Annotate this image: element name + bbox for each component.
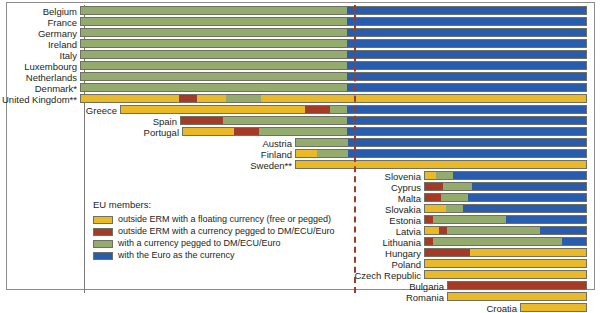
- chart-row: Spain: [7, 116, 594, 125]
- country-bar[interactable]: Lithuania: [424, 237, 587, 246]
- country-label: Portugal: [144, 127, 183, 136]
- country-bar[interactable]: Czech Republic: [424, 270, 587, 279]
- country-bar[interactable]: Malta: [424, 193, 587, 202]
- country-label: Poland: [391, 259, 425, 268]
- country-label: United Kingdom**: [2, 94, 81, 103]
- bar-segment-red: [425, 249, 470, 256]
- country-label: Bulgaria: [409, 281, 448, 290]
- country-label: Germany: [38, 28, 81, 37]
- bar-segment-yellow: [521, 304, 586, 311]
- country-bar[interactable]: Cyprus: [424, 182, 587, 191]
- country-bar[interactable]: Spain: [180, 116, 587, 125]
- country-label: Ireland: [48, 39, 81, 48]
- country-bar[interactable]: Germany: [80, 28, 587, 37]
- legend-item-label: with the Euro as the currency: [118, 251, 235, 260]
- chart-row: Denmark*: [7, 83, 594, 92]
- legend-swatch-red: [93, 228, 113, 236]
- country-label: Netherlands: [26, 72, 81, 81]
- country-bar[interactable]: Croatia: [520, 303, 587, 312]
- country-label: Czech Republic: [354, 270, 425, 279]
- legend-item: with a currency pegged to DM/ECU/Euro: [93, 238, 335, 249]
- bar-segment-green: [81, 51, 347, 58]
- bar-segment-blue: [347, 40, 586, 47]
- country-label: Finland: [261, 149, 296, 158]
- bar-segment-red: [425, 183, 443, 190]
- chart-row: Finland: [7, 149, 594, 158]
- chart-row: Netherlands: [7, 72, 594, 81]
- bar-segment-red: [425, 238, 433, 245]
- chart-row: United Kingdom**: [7, 94, 594, 103]
- bar-segment-blue: [348, 139, 586, 146]
- country-bar[interactable]: Luxembourg: [80, 61, 587, 70]
- country-label: Austria: [262, 138, 296, 147]
- bar-segment-green: [443, 183, 473, 190]
- bar-segment-blue: [463, 205, 586, 212]
- country-bar[interactable]: Poland: [424, 259, 587, 268]
- country-bar[interactable]: Hungary: [424, 248, 587, 257]
- bar-segment-green: [259, 128, 348, 135]
- country-label: Greece: [86, 105, 121, 114]
- country-bar[interactable]: Netherlands: [80, 72, 587, 81]
- chart-row: Croatia: [7, 303, 594, 312]
- chart-row: Portugal: [7, 127, 594, 136]
- bar-segment-red: [425, 216, 433, 223]
- country-bar[interactable]: Estonia: [424, 215, 587, 224]
- bar-segment-green: [226, 95, 261, 102]
- chart-row: France: [7, 17, 594, 26]
- chart-row: Italy: [7, 50, 594, 59]
- bar-segment-yellow: [448, 293, 586, 300]
- country-label: Estonia: [389, 215, 425, 224]
- country-label: Spain: [153, 116, 181, 125]
- country-bar[interactable]: Finland: [295, 149, 587, 158]
- bar-segment-yellow: [347, 95, 586, 102]
- country-bar[interactable]: Romania: [447, 292, 587, 301]
- chart-row: Cyprus: [7, 182, 594, 191]
- bar-segment-yellow: [121, 106, 305, 113]
- chart-row: Austria: [7, 138, 594, 147]
- bar-segment-green: [81, 18, 347, 25]
- bar-segment-yellow: [425, 271, 586, 278]
- country-bar[interactable]: Bulgaria: [447, 281, 587, 290]
- bar-segment-yellow: [425, 172, 436, 179]
- country-label: Sweden**: [250, 160, 296, 169]
- bar-segment-red: [439, 227, 447, 234]
- country-bar[interactable]: Denmark*: [80, 83, 587, 92]
- country-bar[interactable]: United Kingdom**: [80, 94, 587, 103]
- bar-segment-blue: [562, 238, 586, 245]
- country-bar[interactable]: Austria: [295, 138, 587, 147]
- bar-segment-blue: [453, 172, 586, 179]
- country-bar[interactable]: Sweden**: [295, 160, 587, 169]
- country-bar[interactable]: Belgium: [80, 6, 587, 15]
- bar-segment-blue: [347, 73, 586, 80]
- bar-segment-green: [81, 29, 347, 36]
- bar-segment-green: [447, 227, 540, 234]
- bar-segment-green: [433, 216, 506, 223]
- country-label: Lithuania: [382, 237, 425, 246]
- country-bar[interactable]: Latvia: [424, 226, 587, 235]
- bar-segment-blue: [347, 51, 586, 58]
- legend-item: outside ERM with a currency pegged to DM…: [93, 226, 335, 237]
- chart-row: Czech Republic: [7, 270, 594, 279]
- bar-segment-blue: [347, 117, 586, 124]
- legend-item: with the Euro as the currency: [93, 250, 335, 261]
- country-bar[interactable]: Italy: [80, 50, 587, 59]
- legend-swatch-green: [93, 240, 113, 248]
- bar-segment-green: [436, 172, 453, 179]
- bar-segment-green: [81, 7, 347, 14]
- country-bar[interactable]: Slovenia: [424, 171, 587, 180]
- bar-segment-green: [81, 84, 347, 91]
- bar-segment-green: [296, 139, 348, 146]
- legend-item-label: outside ERM with a floating currency (fr…: [118, 215, 331, 224]
- country-bar[interactable]: Ireland: [80, 39, 587, 48]
- country-bar[interactable]: Slovakia: [424, 204, 587, 213]
- country-label: Malta: [398, 193, 425, 202]
- bar-segment-green: [441, 194, 469, 201]
- bar-segment-green: [317, 150, 348, 157]
- bar-segment-blue: [347, 62, 586, 69]
- country-label: Luxembourg: [24, 61, 81, 70]
- country-label: Hungary: [385, 248, 425, 257]
- country-bar[interactable]: Portugal: [182, 127, 587, 136]
- country-bar[interactable]: France: [80, 17, 587, 26]
- country-label: France: [47, 17, 81, 26]
- country-label: Denmark*: [35, 83, 81, 92]
